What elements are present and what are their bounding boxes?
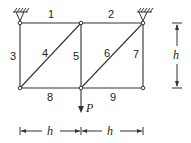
member-label-3: 3 [10,50,16,62]
load-arrow-icon [78,90,84,113]
joint-bottom-middle [79,86,83,90]
horizontal-dimension-left-label: h [47,124,53,138]
joint-top-right [141,21,145,25]
member-label-4: 4 [42,47,48,59]
vertical-dimension-label: h [173,48,179,62]
horizontal-dimension [20,127,143,135]
right-pin-support-icon [137,8,153,21]
member-label-5: 5 [73,50,79,62]
left-pin-support-icon [13,8,29,21]
member-label-9: 9 [110,91,116,103]
member-label-2: 2 [108,8,114,20]
member-4 [20,23,81,88]
load-label: P [85,101,94,115]
member-label-1: 1 [48,8,54,20]
member-label-7: 7 [133,48,139,60]
joint-bottom-right [141,86,145,90]
horizontal-dimension-right-label: h [107,124,113,138]
joint-top-middle [79,21,83,25]
truss-diagram: 1 2 3 4 5 6 7 8 9 P h h h [0,0,191,143]
member-label-8: 8 [47,91,53,103]
joint-top-left [18,21,22,25]
joint-bottom-left [18,86,22,90]
member-label-6: 6 [104,47,110,59]
